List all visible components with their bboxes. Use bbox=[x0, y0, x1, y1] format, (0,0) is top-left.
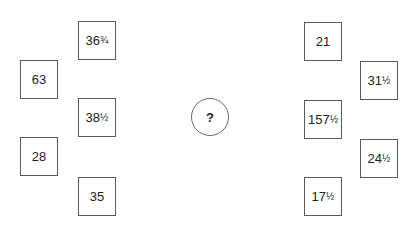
number-whole: 17 bbox=[312, 189, 326, 204]
number-whole: 31 bbox=[368, 73, 382, 88]
number-whole: 36 bbox=[86, 33, 100, 48]
number-fraction: ½ bbox=[100, 112, 108, 123]
number-whole: 28 bbox=[32, 149, 46, 164]
number-whole: 35 bbox=[90, 189, 104, 204]
number-box-left-5: 35 bbox=[78, 177, 116, 216]
number-box-right-5: 17½ bbox=[304, 177, 342, 216]
question-mark: ? bbox=[206, 110, 214, 125]
number-box-right-1: 21 bbox=[304, 22, 342, 61]
number-fraction: ½ bbox=[330, 114, 338, 125]
number-box-right-2: 31½ bbox=[360, 61, 398, 100]
unknown-value-circle: ? bbox=[191, 98, 229, 136]
number-whole: 157 bbox=[308, 112, 330, 127]
number-box-left-3: 38½ bbox=[78, 98, 116, 137]
number-box-left-2: 63 bbox=[20, 60, 58, 99]
number-box-left-4: 28 bbox=[20, 137, 58, 176]
number-whole: 38 bbox=[86, 110, 100, 125]
number-box-right-3: 157½ bbox=[304, 100, 342, 139]
number-whole: 21 bbox=[316, 34, 330, 49]
number-box-left-1: 36¾ bbox=[78, 21, 116, 60]
number-fraction: ½ bbox=[382, 75, 390, 86]
number-fraction: ½ bbox=[382, 153, 390, 164]
number-fraction: ¾ bbox=[100, 35, 108, 46]
number-box-right-4: 24½ bbox=[360, 139, 398, 178]
number-whole: 24 bbox=[368, 151, 382, 166]
number-fraction: ½ bbox=[326, 191, 334, 202]
number-whole: 63 bbox=[32, 72, 46, 87]
